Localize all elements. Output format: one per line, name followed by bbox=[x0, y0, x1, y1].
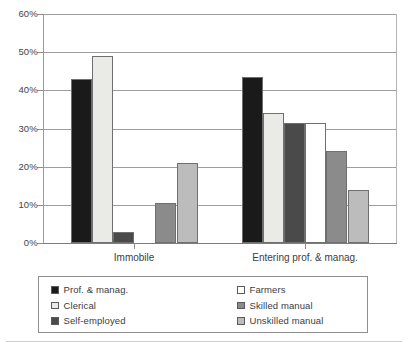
bar bbox=[284, 123, 305, 243]
legend-column-left: Prof. & manag.ClericalSelf-employed bbox=[51, 282, 128, 329]
bar bbox=[305, 123, 326, 243]
y-axis-tick-label: 10% bbox=[0, 199, 38, 210]
page-rule bbox=[6, 341, 402, 342]
x-axis-category-label: Immobile bbox=[44, 252, 224, 263]
legend-swatch bbox=[51, 286, 59, 294]
bar-chart: 0%10%20%30%40%50%60% ImmobileEntering pr… bbox=[0, 0, 408, 345]
legend-label: Prof. & manag. bbox=[64, 284, 129, 295]
bar bbox=[177, 163, 198, 243]
gridline bbox=[44, 14, 396, 15]
legend-swatch bbox=[237, 302, 245, 310]
y-axis-tick-label: 0% bbox=[0, 237, 38, 248]
x-axis-tick-mark bbox=[134, 243, 135, 249]
legend-item: Unskilled manual bbox=[237, 313, 323, 329]
legend-item: Skilled manual bbox=[237, 298, 323, 314]
legend-swatch bbox=[51, 302, 59, 310]
legend-item: Farmers bbox=[237, 282, 323, 298]
bar bbox=[326, 151, 347, 243]
y-axis-tick-label: 50% bbox=[0, 46, 38, 57]
bar bbox=[263, 113, 284, 243]
bar bbox=[242, 77, 263, 243]
legend-label: Self-employed bbox=[64, 315, 126, 326]
legend-item: Prof. & manag. bbox=[51, 282, 128, 298]
legend: Prof. & manag.ClericalSelf-employed Farm… bbox=[38, 276, 368, 333]
bar bbox=[155, 203, 176, 243]
legend-label: Unskilled manual bbox=[250, 315, 324, 326]
legend-item: Self-employed bbox=[51, 313, 128, 329]
bar bbox=[113, 232, 134, 243]
y-axis-tick-label: 20% bbox=[0, 161, 38, 172]
gridline bbox=[44, 52, 396, 53]
plot-region: 0%10%20%30%40%50%60% ImmobileEntering pr… bbox=[0, 0, 408, 268]
legend-label: Skilled manual bbox=[250, 300, 313, 311]
x-axis-category-label: Entering prof. & manag. bbox=[215, 252, 395, 263]
bar bbox=[71, 79, 92, 243]
legend-label: Clerical bbox=[64, 300, 96, 311]
bar bbox=[348, 190, 369, 243]
legend-column-right: FarmersSkilled manualUnskilled manual bbox=[237, 282, 323, 329]
x-axis-tick-mark bbox=[305, 243, 306, 249]
legend-swatch bbox=[51, 317, 59, 325]
x-axis-baseline bbox=[43, 243, 397, 244]
y-axis-tick-label: 40% bbox=[0, 84, 38, 95]
legend-label: Farmers bbox=[250, 284, 286, 295]
legend-swatch bbox=[237, 317, 245, 325]
y-axis-tick-label: 60% bbox=[0, 8, 38, 19]
y-axis-tick-label: 30% bbox=[0, 123, 38, 134]
bar bbox=[92, 56, 113, 243]
legend-item: Clerical bbox=[51, 298, 128, 314]
legend-swatch bbox=[237, 286, 245, 294]
